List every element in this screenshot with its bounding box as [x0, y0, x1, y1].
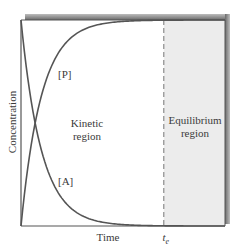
y-axis-title: Concentration — [6, 90, 18, 153]
region-label-kinetic: Kinetic — [71, 117, 103, 129]
series-label-reactant: [A] — [58, 175, 73, 187]
x-marker-label: te — [162, 231, 169, 246]
x-axis-title: Time — [97, 231, 120, 243]
region-label-equilibrium: Equilibrium — [168, 114, 222, 126]
kinetic-equilibrium-chart: [P] [A] Kinetic region Equilibrium regio… — [0, 0, 240, 250]
frame-shadow-right — [225, 14, 230, 224]
x-marker-label-subscript: e — [166, 237, 170, 246]
series-label-product: [P] — [58, 68, 71, 80]
frame-shadow-top — [25, 14, 230, 20]
region-label-equilibrium-line2: region — [181, 127, 210, 139]
region-label-kinetic-line2: region — [73, 130, 102, 142]
